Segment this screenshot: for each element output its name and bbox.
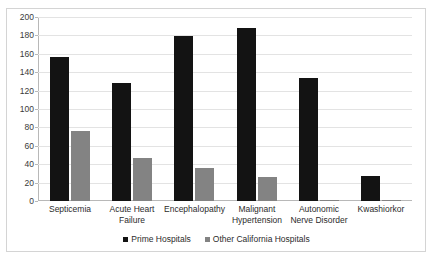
x-axis-category-label: Acute Heart Failure [101,204,163,225]
y-axis-tick-label: 20 [25,178,34,187]
y-axis-tick-mark [35,54,38,55]
bar[interactable] [361,176,380,201]
legend-item[interactable]: Other California Hospitals [205,235,310,244]
bar-group [288,17,350,201]
chart-legend: Prime HospitalsOther California Hospital… [0,235,433,244]
legend-label: Prime Hospitals [131,235,191,244]
y-axis-tick-mark [35,146,38,147]
y-axis-tick-mark [35,17,38,18]
top-edge-artifact [0,0,433,6]
x-axis-category-label: Encephalopathy [163,204,226,225]
x-axis-category-label: Kwashiorkor [350,204,412,225]
bar[interactable] [382,200,401,202]
legend-label: Other California Hospitals [213,235,310,244]
y-axis-tick-mark [35,183,38,184]
bar[interactable] [133,158,152,201]
y-axis-tick-mark [35,109,38,110]
bar[interactable] [112,83,131,201]
bar[interactable] [50,57,69,201]
bar[interactable] [299,78,318,201]
y-axis-tick-label: 40 [25,160,34,169]
legend-swatch-icon [205,237,210,242]
y-axis-tick-mark [35,164,38,165]
y-axis-tick-label: 160 [20,50,34,59]
x-axis-category-labels: SepticemiaAcute Heart FailureEncephalopa… [39,204,412,225]
bar-groups [39,17,412,201]
y-axis-tick-label: 0 [29,197,34,206]
bar[interactable] [320,200,339,202]
bar[interactable] [258,177,277,201]
bar-group [163,17,225,201]
bar-group [226,17,288,201]
bar[interactable] [195,168,214,201]
bar[interactable] [237,28,256,201]
y-axis-tick-mark [35,72,38,73]
bar-group [101,17,163,201]
y-axis-tick-label: 120 [20,86,34,95]
y-axis-tick-mark [35,91,38,92]
y-axis-tick-labels: 020406080100120140160180200 [0,17,34,201]
x-axis-category-label: Autonomic Nerve Disorder [288,204,350,225]
bar[interactable] [174,36,193,201]
y-axis-tick-label: 80 [25,123,34,132]
y-axis-tick-label: 140 [20,68,34,77]
y-axis-tick-mark [35,127,38,128]
y-axis-tick-mark [35,35,38,36]
y-axis-tick-mark [35,201,38,202]
bar[interactable] [71,131,90,201]
bar-group [350,17,412,201]
y-axis-tick-label: 200 [20,13,34,22]
y-axis-tick-label: 180 [20,31,34,40]
bar-group [39,17,101,201]
y-axis-tick-label: 100 [20,105,34,114]
y-axis-tick-label: 60 [25,142,34,151]
legend-swatch-icon [123,237,128,242]
x-axis-category-label: Malignant Hypertension [226,204,288,225]
x-axis-category-label: Septicemia [39,204,101,225]
legend-item[interactable]: Prime Hospitals [123,235,191,244]
bar-chart: 020406080100120140160180200 SepticemiaAc… [0,0,433,259]
